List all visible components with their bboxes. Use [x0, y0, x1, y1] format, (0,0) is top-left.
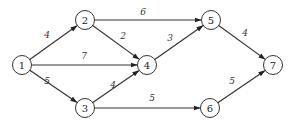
edge-1-to-3 [30, 70, 77, 102]
node-label: 3 [82, 103, 88, 114]
network-diagram: 4752463545 1234567 [0, 0, 295, 125]
node-6: 6 [201, 99, 220, 118]
edge-weight-label: 5 [229, 76, 235, 86]
node-label: 6 [207, 103, 213, 114]
node-7: 7 [264, 56, 283, 75]
node-label: 4 [144, 60, 150, 71]
node-3: 3 [76, 99, 95, 118]
edge-weight-label: 4 [43, 30, 50, 40]
edge-4-to-5 [155, 26, 203, 60]
edge-weight-label: 5 [44, 76, 50, 86]
edge-1-to-2 [30, 26, 77, 60]
node-label: 1 [19, 60, 25, 71]
edge-weight-label: 3 [167, 33, 173, 43]
edge-weight-label: 5 [149, 93, 155, 103]
node-2: 2 [76, 11, 95, 30]
node-label: 5 [208, 15, 214, 26]
edge-6-to-7 [218, 71, 265, 103]
edge-weight-label: 2 [119, 31, 126, 41]
node-label: 7 [270, 60, 276, 71]
edge-weight-label: 7 [81, 51, 87, 61]
edge-weight-label: 6 [140, 7, 146, 17]
node-label: 2 [82, 15, 88, 26]
node-5: 5 [202, 11, 221, 30]
edge-weight-label: 4 [109, 80, 116, 90]
nodes-layer: 1234567 [13, 11, 283, 118]
edge-weight-label: 4 [241, 28, 248, 38]
edge-2-to-4 [93, 26, 139, 60]
node-4: 4 [138, 56, 157, 75]
node-1: 1 [13, 56, 32, 75]
